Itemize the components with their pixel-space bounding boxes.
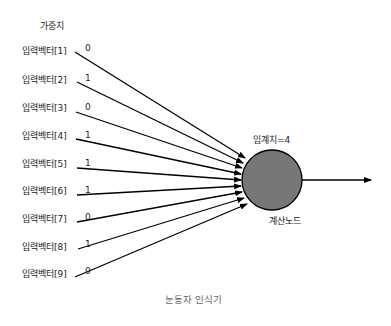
input-edge-8	[78, 198, 244, 249]
diagram-caption: 눈동자 인식기	[165, 292, 222, 306]
input-edge-4	[76, 139, 241, 174]
input-edge-1	[75, 52, 245, 158]
input-label-3: 입력벡터[3]	[22, 104, 67, 113]
weight-9: 0	[85, 267, 91, 276]
input-label-1: 입력벡터[1]	[22, 47, 67, 56]
input-label-7: 입력벡터[7]	[22, 215, 67, 224]
weight-5: 1	[85, 159, 91, 168]
input-edge-2	[77, 82, 243, 163]
weight-1: 0	[85, 44, 91, 53]
input-label-9: 입력벡터[9]	[22, 270, 67, 279]
input-edge-5	[77, 168, 241, 180]
input-label-2: 입력벡터[2]	[22, 76, 67, 85]
input-label-4: 입력벡터[4]	[22, 132, 67, 141]
input-edge-9	[75, 204, 247, 277]
weight-4: 1	[85, 131, 91, 140]
input-label-6: 입력벡터[6]	[22, 187, 67, 196]
input-edge-7	[77, 192, 242, 222]
weight-6: 1	[85, 186, 91, 195]
weight-2: 1	[85, 74, 91, 83]
weights-header: 가중치	[40, 22, 64, 31]
input-edge-6	[77, 186, 241, 195]
input-label-8: 입력벡터[8]	[22, 243, 67, 252]
input-label-5: 입력벡터[5]	[22, 160, 67, 169]
weight-7: 0	[85, 213, 91, 222]
compute-node	[242, 150, 302, 210]
weight-3: 0	[85, 103, 91, 112]
threshold-label: 임계치=4	[253, 136, 290, 145]
compute-node-label: 계산노드	[269, 217, 301, 226]
weight-8: 1	[85, 240, 91, 249]
